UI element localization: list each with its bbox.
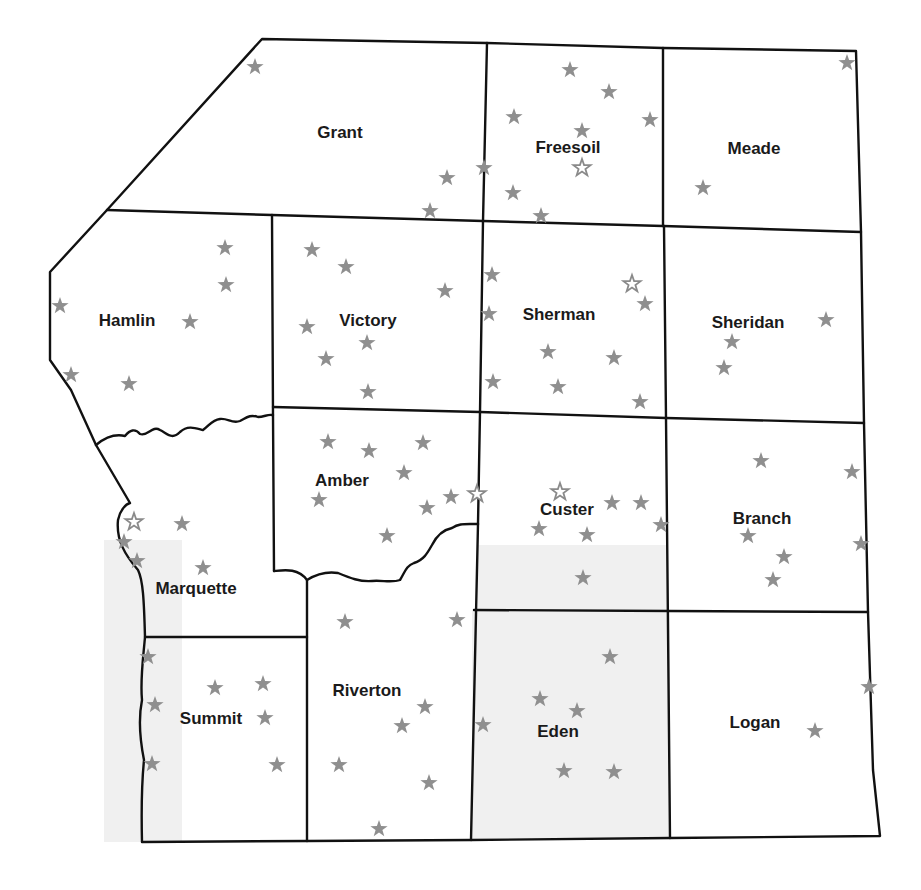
open-star-icon	[551, 483, 568, 499]
solid-star-icon	[578, 526, 595, 542]
border-hamlin-victory	[272, 215, 273, 415]
solid-star-icon	[561, 61, 578, 77]
solid-star-icon	[254, 675, 271, 691]
county-label-sheridan: Sheridan	[712, 313, 785, 332]
county-label-marquette: Marquette	[155, 579, 236, 598]
solid-star-icon	[806, 722, 823, 738]
river-amber-south	[274, 524, 478, 581]
solid-star-icon	[636, 295, 653, 311]
solid-star-icon	[694, 179, 711, 195]
river-hamlin-marquette	[96, 415, 272, 445]
solid-star-icon	[843, 463, 860, 479]
open-star-icon	[125, 513, 142, 529]
solid-star-icon	[51, 297, 68, 313]
solid-star-icon	[206, 679, 223, 695]
solid-star-icon	[360, 442, 377, 458]
solid-star-icon	[505, 108, 522, 124]
open-star-icon	[468, 485, 485, 501]
solid-star-icon	[393, 717, 410, 733]
solid-star-icon	[337, 258, 354, 274]
solid-star-icon	[420, 774, 437, 790]
solid-star-icon	[378, 527, 395, 543]
county-label-hamlin: Hamlin	[99, 311, 156, 330]
open-star-icon	[573, 159, 590, 175]
solid-star-icon	[310, 491, 327, 507]
solid-star-icon	[217, 276, 234, 292]
solid-star-icon	[549, 378, 566, 394]
solid-star-icon	[268, 756, 285, 772]
solid-star-icon	[358, 334, 375, 350]
solid-star-icon	[416, 698, 433, 714]
county-labels: Grant Freesoil Meade Hamlin Victory Sher…	[99, 123, 792, 741]
solid-star-icon	[246, 58, 263, 74]
solid-star-icon	[181, 313, 198, 329]
county-label-sherman: Sherman	[523, 305, 596, 324]
border-amber-custer	[478, 412, 480, 524]
solid-star-icon	[600, 83, 617, 99]
solid-star-icon	[256, 709, 273, 725]
solid-star-icon	[631, 393, 648, 409]
border-grant-freesoil	[483, 43, 487, 221]
solid-star-icon	[605, 349, 622, 365]
solid-star-icon	[120, 375, 137, 391]
solid-star-icon	[319, 433, 336, 449]
solid-star-icon	[395, 464, 412, 480]
solid-star-icon	[641, 111, 658, 127]
county-label-eden: Eden	[537, 722, 579, 741]
county-label-riverton: Riverton	[333, 681, 402, 700]
solid-star-icon	[483, 266, 500, 282]
solid-star-icon	[317, 350, 334, 366]
border-sherman-sheridan	[664, 226, 666, 418]
solid-star-icon	[194, 559, 211, 575]
solid-star-icon	[298, 318, 315, 334]
solid-star-icon	[817, 311, 834, 327]
county-label-victory: Victory	[339, 311, 397, 330]
solid-star-icon	[436, 282, 453, 298]
solid-star-icon	[632, 494, 649, 510]
solid-star-icon	[359, 383, 376, 399]
county-label-meade: Meade	[728, 139, 781, 158]
solid-star-icon	[414, 434, 431, 450]
solid-star-icon	[173, 515, 190, 531]
solid-star-icon	[838, 54, 855, 70]
solid-star-icon	[442, 488, 459, 504]
solid-star-icon	[530, 520, 547, 536]
county-map: Grant Freesoil Meade Hamlin Victory Sher…	[0, 0, 921, 890]
solid-star-icon	[739, 527, 756, 543]
solid-star-icon	[448, 611, 465, 627]
solid-star-icon	[336, 613, 353, 629]
border-row2	[273, 407, 864, 423]
solid-star-icon	[438, 169, 455, 185]
border-victory-sherman	[480, 221, 483, 412]
solid-star-icon	[216, 239, 233, 255]
solid-star-icon	[418, 499, 435, 515]
solid-star-icon	[715, 359, 732, 375]
county-label-branch: Branch	[733, 509, 792, 528]
county-label-grant: Grant	[317, 123, 363, 142]
solid-star-icon	[860, 678, 877, 694]
solid-star-icon	[764, 571, 781, 587]
solid-star-icon	[723, 333, 740, 349]
solid-star-icon	[539, 343, 556, 359]
county-label-summit: Summit	[180, 709, 243, 728]
county-label-custer: Custer	[540, 500, 594, 519]
open-star-icon	[623, 275, 640, 291]
solid-star-icon	[303, 241, 320, 257]
solid-star-icon	[775, 548, 792, 564]
county-label-freesoil: Freesoil	[535, 138, 600, 157]
county-label-amber: Amber	[315, 471, 369, 490]
solid-star-icon	[504, 184, 521, 200]
solid-star-icon	[421, 202, 438, 218]
solid-star-icon	[752, 452, 769, 468]
solid-star-icon	[480, 305, 497, 321]
county-label-logan: Logan	[730, 713, 781, 732]
shaded-area-custer-south	[478, 545, 668, 611]
solid-star-icon	[532, 207, 549, 223]
solid-star-icon	[330, 756, 347, 772]
solid-star-icon	[370, 820, 387, 836]
solid-star-icon	[484, 373, 501, 389]
solid-star-icon	[573, 122, 590, 138]
open-star-markers	[125, 159, 640, 529]
solid-star-icon	[603, 494, 620, 510]
border-marquette-amber	[273, 415, 274, 571]
